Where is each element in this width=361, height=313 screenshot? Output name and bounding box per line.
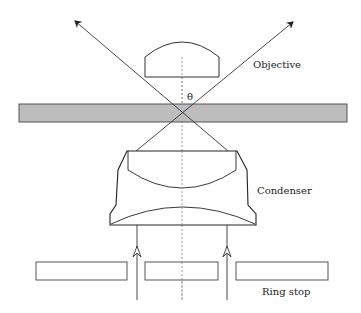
ring-stop-left (36, 262, 127, 280)
objective-lens (145, 42, 219, 77)
left-ray (75, 21, 228, 151)
condenser (110, 151, 256, 225)
objective-label: Objective (253, 59, 301, 70)
condenser-label: Condenser (257, 185, 312, 196)
ring-stop-right (236, 262, 328, 280)
angle-label: θ (187, 91, 193, 102)
ring-stop-center (145, 262, 218, 280)
optics-diagram: Objective θ Condenser Ring stop (0, 0, 361, 313)
right-ray (136, 22, 293, 151)
ring-stop-label: Ring stop (262, 286, 310, 297)
